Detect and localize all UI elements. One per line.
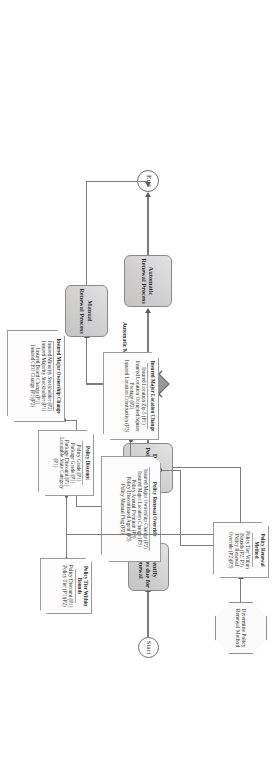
arrow-decision-to-automatic — [145, 308, 151, 313]
note-separator — [252, 533, 253, 567]
note-item: Insured Majority Stockholder (P1) — [40, 335, 46, 417]
edge-tier-to-discount — [66, 496, 67, 558]
note-separator — [53, 341, 54, 411]
arrow-manual-return-to-end — [145, 182, 151, 187]
diagram-stage: Start Identify Policies due for Renewal … — [0, 0, 278, 772]
arrow-automatic-to-end — [145, 192, 151, 197]
note-item: Policy Manual Flag (P2) — [119, 461, 125, 557]
node-start[interactable]: Start — [138, 637, 159, 658]
note-item: Policy Tier Within Bounds (P2, P3) — [239, 527, 250, 573]
note-item: Policy Renewal Override (P2)(P3) — [227, 527, 238, 573]
note-insured-major-location-change[interactable]: Insured Major Location Change Insured Lo… — [103, 352, 159, 440]
node-manual-renewal-process-label: Manual Renewal Process — [79, 288, 93, 334]
note-header: Policy Renewal Method — [254, 527, 265, 573]
edge-automatic-to-end — [147, 197, 148, 255]
note-header: Policy Renewal Override — [151, 461, 157, 557]
note-policy-renewal-method[interactable]: Policy Renewal Method Policy Tier Within… — [213, 522, 269, 578]
edge-manual-return-vertical — [87, 181, 148, 182]
note-header: Policy Discount — [84, 435, 90, 491]
note-policy-renewal-override[interactable]: Policy Renewal Override Insured Major Ow… — [101, 456, 161, 562]
note-header: Insured Major Location Change — [149, 357, 155, 435]
note-item: Insured Major Location Change (P3) — [136, 461, 142, 557]
node-octagon-label: Determine Policy Renewal Method — [235, 606, 248, 650]
node-start-label: Start — [145, 640, 153, 654]
node-automatic-renewal-process[interactable]: Automatic Renewal Process — [124, 255, 172, 307]
edge-ownership-drop — [65, 420, 77, 421]
note-item: Insured Location Construction (P3) — [123, 357, 129, 435]
note-item: Insured CEO Change (P1)(P2) — [29, 335, 35, 417]
edge-override-to-ownership-vertical — [76, 506, 101, 507]
edge-prm-to-tier-vertical — [66, 534, 213, 535]
edge-octagon-to-policy-renewal-method — [240, 578, 241, 602]
note-item: Locatable State Category (P1) — [52, 435, 63, 491]
edge-determine-to-decomposition — [173, 467, 242, 468]
node-automatic-renewal-process-label: Automatic Renewal Process — [141, 258, 155, 304]
note-header: Policy Tier Within Bounds — [77, 563, 88, 609]
node-octagon-determine-renewal-method[interactable]: Determine Policy Renewal Method — [215, 602, 267, 654]
note-separator — [147, 363, 148, 429]
edge-manual-return-horizontal — [86, 181, 87, 285]
note-separator — [75, 569, 76, 603]
note-item: Policy Discount (P1) — [67, 563, 73, 609]
note-policy-tier-within-bounds[interactable]: Policy Tier Within Bounds Policy Discoun… — [40, 558, 92, 614]
edge-start-to-identify — [147, 592, 148, 637]
node-manual-renewal-process[interactable]: Manual Renewal Process — [65, 285, 108, 337]
note-insured-major-ownership-change[interactable]: Insured Major Ownership Change Insured M… — [7, 330, 65, 422]
note-separator — [82, 441, 83, 485]
note-item: Insured Location Occupied Square Footage… — [129, 357, 140, 435]
note-item: Package Grade (P1) — [69, 435, 75, 491]
edge-override-to-location-change — [130, 440, 131, 456]
edge-manual-branch-horizontal — [86, 338, 87, 384]
note-header: Insured Major Ownership Change — [55, 335, 61, 417]
edge-override-drop — [161, 470, 181, 471]
diagram-canvas: Start Identify Policies due for Renewal … — [0, 0, 278, 772]
note-separator — [149, 467, 150, 551]
note-policy-discount[interactable]: Policy Discount Policy Grade (P1) Packag… — [38, 430, 94, 496]
note-item: Policy Tier (P1)(P2) — [62, 563, 68, 609]
edge-prm-to-override-vertical — [180, 545, 213, 546]
